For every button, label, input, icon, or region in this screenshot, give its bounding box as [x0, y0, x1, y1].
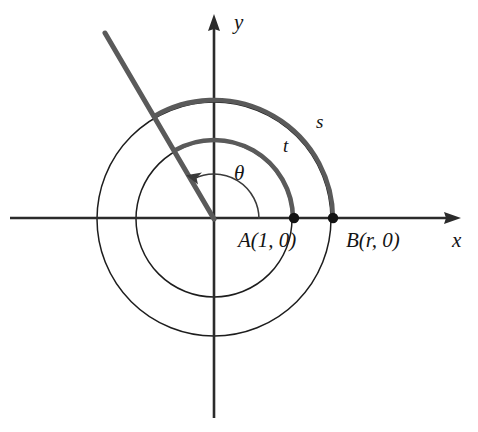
terminal-ray: [105, 33, 214, 219]
theta-label: θ: [234, 161, 244, 185]
point-a-label: A(1, 0): [236, 228, 296, 252]
y-axis-label: y: [232, 10, 244, 34]
point-b-label: B(r, 0): [346, 228, 400, 252]
x-axis-arrowhead: [444, 212, 461, 224]
y-axis-arrowhead: [208, 14, 220, 31]
arc-t-label: t: [283, 135, 289, 156]
x-axis-label: x: [451, 228, 462, 252]
polar-angle-diagram: y x s t θ A(1, 0) B(r, 0): [0, 0, 478, 432]
arc-s-label: s: [316, 111, 323, 132]
point-a-marker: [289, 213, 299, 223]
point-b-marker: [328, 213, 338, 223]
